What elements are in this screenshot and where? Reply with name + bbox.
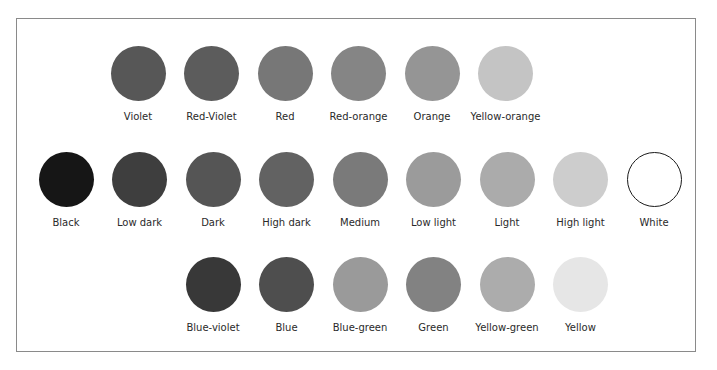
color-circle: [39, 152, 94, 207]
swatch-label: Yellow: [531, 322, 631, 333]
swatch-label: Yellow-orange: [456, 111, 556, 122]
color-circle: [405, 46, 460, 101]
color-circle: [259, 257, 314, 312]
swatch-yellow: Yellow: [531, 257, 631, 333]
color-circle: [333, 152, 388, 207]
swatch-label: White: [604, 217, 704, 228]
color-circle: [184, 46, 239, 101]
color-circle: [478, 46, 533, 101]
color-circle: [111, 46, 166, 101]
swatch-white: White: [604, 152, 704, 228]
color-circle: [186, 257, 241, 312]
color-circle: [480, 152, 535, 207]
color-circle: [406, 257, 461, 312]
color-circle: [258, 46, 313, 101]
color-circle: [480, 257, 535, 312]
color-circle: [186, 152, 241, 207]
color-circle: [627, 152, 682, 207]
color-circle: [112, 152, 167, 207]
color-circle: [406, 152, 461, 207]
color-circle: [553, 257, 608, 312]
color-circle: [553, 152, 608, 207]
color-circle: [333, 257, 388, 312]
color-circle: [259, 152, 314, 207]
swatch-yellow-orange: Yellow-orange: [456, 46, 556, 122]
color-circle: [331, 46, 386, 101]
